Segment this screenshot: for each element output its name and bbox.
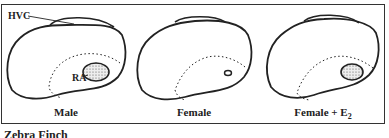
ra-nucleus bbox=[83, 63, 109, 81]
panel-label-female-e2: Female + E2 bbox=[259, 106, 387, 121]
ra-annotation: RA bbox=[72, 72, 87, 83]
figure-title: Zebra Finch bbox=[4, 128, 68, 138]
dotted-boundary bbox=[175, 56, 245, 100]
female-e2-brain-diagram bbox=[259, 5, 387, 105]
dotted-boundary bbox=[297, 56, 373, 100]
panel-label-male: Male bbox=[2, 106, 130, 118]
ra-nucleus bbox=[225, 71, 232, 76]
male-brain-diagram: HVC RA bbox=[2, 5, 130, 105]
panel-label-female: Female bbox=[130, 106, 258, 118]
female-brain-diagram bbox=[130, 5, 258, 105]
brain-outline bbox=[7, 25, 125, 99]
brain-outline bbox=[267, 19, 379, 98]
ra-nucleus bbox=[341, 64, 363, 80]
hvc-annotation: HVC bbox=[8, 10, 30, 21]
